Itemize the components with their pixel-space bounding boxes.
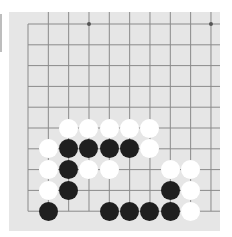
white-stone[interactable] — [79, 119, 98, 138]
black-stone[interactable] — [59, 181, 78, 200]
left-edge-divider — [0, 14, 2, 52]
black-stone[interactable] — [161, 202, 180, 221]
star-point-icon — [209, 22, 213, 26]
white-stone[interactable] — [39, 139, 58, 158]
white-stone[interactable] — [59, 119, 78, 138]
white-stone[interactable] — [140, 119, 159, 138]
black-stone[interactable] — [39, 202, 58, 221]
white-stone[interactable] — [100, 160, 119, 179]
game-board[interactable] — [9, 12, 220, 231]
star-point-icon — [87, 22, 91, 26]
white-stone[interactable] — [181, 181, 200, 200]
white-stone[interactable] — [181, 202, 200, 221]
white-stone[interactable] — [39, 160, 58, 179]
white-stone[interactable] — [161, 160, 180, 179]
black-stone[interactable] — [100, 139, 119, 158]
black-stone[interactable] — [120, 202, 139, 221]
white-stone[interactable] — [39, 181, 58, 200]
black-stone[interactable] — [100, 202, 119, 221]
white-stone[interactable] — [100, 119, 119, 138]
black-stone[interactable] — [161, 181, 180, 200]
white-stone[interactable] — [120, 119, 139, 138]
